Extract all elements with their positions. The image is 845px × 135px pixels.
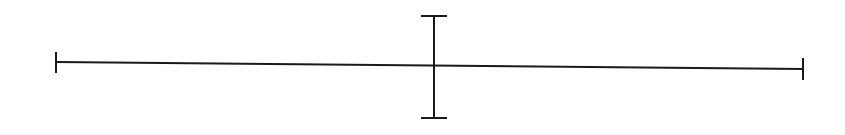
cross-diagram (0, 0, 845, 135)
horizontal-line-segment (56, 62, 803, 69)
